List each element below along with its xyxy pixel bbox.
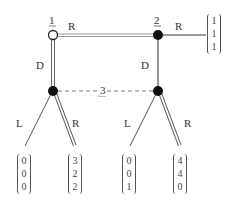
payoff-vector-322: 3 2 2 — [68, 154, 82, 194]
payoff-value: 4 — [178, 156, 183, 166]
action-label-n3b-L: L — [124, 118, 131, 129]
node-player3-left — [48, 86, 58, 96]
edge-n3a-L — [25, 94, 51, 146]
payoff-value: 0 — [127, 169, 132, 179]
payoff-value: 0 — [22, 169, 27, 179]
game-tree — [0, 0, 230, 208]
action-label-n3a-R: R — [72, 118, 79, 129]
player1-label: 1 — [49, 15, 55, 26]
payoff-value: 0 — [178, 182, 183, 192]
payoff-value: 4 — [178, 169, 183, 179]
payoff-value: 1 — [127, 182, 132, 192]
player2-label: 2 — [154, 15, 160, 26]
action-label-n3a-L: L — [16, 118, 23, 129]
edge-n1-n2-R — [58, 34, 154, 37]
action-label-n1-D: D — [36, 60, 44, 71]
payoff-value: 1 — [212, 29, 217, 39]
action-label-n1-R: R — [68, 21, 75, 32]
payoff-value: 3 — [73, 156, 78, 166]
node-player2 — [153, 30, 163, 40]
action-label-n3b-R: R — [184, 118, 191, 129]
payoff-vector-000: 0 0 0 — [17, 154, 31, 194]
payoff-value: 0 — [22, 156, 27, 166]
node-player3-right — [153, 86, 163, 96]
payoff-vector-111: 1 1 1 — [207, 14, 221, 54]
payoff-value: 0 — [22, 182, 27, 192]
payoff-value: 0 — [127, 156, 132, 166]
player3-label: 3 — [99, 85, 107, 96]
edge-n3b-L — [130, 94, 156, 146]
action-label-n2-R: R — [175, 21, 182, 32]
payoff-value: 1 — [212, 42, 217, 52]
payoff-value: 2 — [73, 169, 78, 179]
edge-n3b-R — [159, 93, 181, 146]
edge-n1-n3a-D — [52, 40, 55, 87]
payoff-vector-440: 4 4 0 — [173, 154, 187, 194]
payoff-vector-001: 0 0 1 — [122, 154, 136, 194]
node-player1-hollow — [49, 31, 58, 40]
payoff-value: 1 — [212, 16, 217, 26]
action-label-n2-D: D — [141, 60, 149, 71]
payoff-value: 2 — [73, 182, 78, 192]
